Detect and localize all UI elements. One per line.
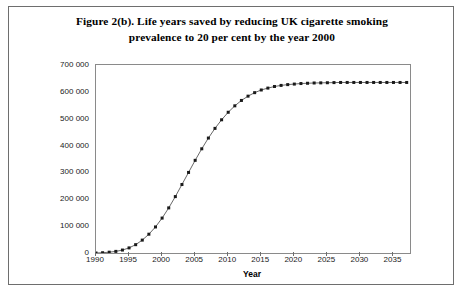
x-axis-tick-labels: 1990199520002005201020152020202520302035 (95, 255, 409, 267)
data-point-marker (233, 104, 236, 107)
data-point-marker (213, 127, 216, 130)
data-point-marker (200, 147, 203, 150)
y-axis-tick-label: 700 000 (60, 60, 89, 69)
data-point-marker (128, 246, 131, 249)
data-point-marker (339, 81, 342, 84)
data-point-marker (326, 81, 329, 84)
data-point-marker (260, 88, 263, 91)
x-axis-tick-label: 2000 (152, 255, 170, 264)
figure-title: Figure 2(b). Life years saved by reducin… (31, 14, 433, 45)
data-point-marker (141, 239, 144, 242)
y-axis-tick-label: 500 000 (60, 113, 89, 122)
y-axis-tick-label: 300 000 (60, 167, 89, 176)
data-point-marker (180, 183, 183, 186)
data-point-marker (108, 251, 111, 253)
data-point-marker (293, 83, 296, 86)
y-axis-tick-labels: 0100 000200 000300 000400 000500 000600 … (29, 64, 89, 252)
data-point-marker (306, 82, 309, 85)
data-point-marker (154, 225, 157, 228)
data-point-marker (167, 206, 170, 209)
data-point-marker (273, 85, 276, 88)
data-point-marker (286, 83, 289, 86)
y-axis-tick-label: 400 000 (60, 140, 89, 149)
data-point-marker (405, 81, 408, 84)
data-point-marker (161, 217, 164, 220)
data-point-marker (379, 81, 382, 84)
data-point-marker (174, 195, 177, 198)
x-axis-tick-label: 2030 (351, 255, 369, 264)
data-point-marker (399, 81, 402, 84)
data-point-marker (266, 87, 269, 90)
x-axis-title: Year (95, 269, 409, 279)
x-axis-tick-label: 2035 (384, 255, 402, 264)
y-axis-tick-label: 200 000 (60, 194, 89, 203)
plot-area (95, 64, 411, 254)
figure-title-line-1: Figure 2(b). Life years saved by reducin… (31, 14, 433, 30)
data-point-marker (121, 249, 124, 252)
data-point-marker (220, 118, 223, 121)
data-point-marker (101, 251, 104, 253)
data-point-marker (253, 91, 256, 94)
data-point-marker (227, 111, 230, 114)
x-axis-tick-label: 1995 (119, 255, 137, 264)
data-point-marker (313, 81, 316, 84)
x-axis-tick-label: 2005 (185, 255, 203, 264)
data-point-marker (299, 82, 302, 85)
data-point-marker (187, 171, 190, 174)
data-point-marker (392, 81, 395, 84)
data-point-marker (247, 95, 250, 98)
data-point-marker (352, 81, 355, 84)
data-point-marker (372, 81, 375, 84)
figure-title-line-2: prevalence to 20 per cent by the year 20… (31, 30, 433, 46)
data-point-marker (346, 81, 349, 84)
data-point-marker (194, 159, 197, 162)
data-point-marker (366, 81, 369, 84)
x-axis-tick-label: 2020 (284, 255, 302, 264)
data-point-marker (385, 81, 388, 84)
figure-frame: Figure 2(b). Life years saved by reducin… (8, 6, 454, 285)
x-axis-tick-label: 2015 (251, 255, 269, 264)
x-axis-tick-label: 2010 (218, 255, 236, 264)
data-point-marker (114, 250, 117, 253)
data-point-marker (147, 233, 150, 236)
y-axis-tick-label: 600 000 (60, 86, 89, 95)
data-point-marker (207, 137, 210, 140)
series-line (96, 82, 407, 253)
x-axis-tick-label: 2025 (317, 255, 335, 264)
data-point-marker (319, 81, 322, 84)
data-point-marker (240, 99, 243, 102)
data-point-marker (96, 252, 98, 254)
data-point-marker (280, 84, 283, 87)
data-point-marker (359, 81, 362, 84)
data-series-line (96, 65, 410, 253)
data-point-marker (134, 243, 137, 246)
x-axis-tick-label: 1990 (86, 255, 104, 264)
y-axis-tick-label: 100 000 (60, 221, 89, 230)
data-point-marker (332, 81, 335, 84)
